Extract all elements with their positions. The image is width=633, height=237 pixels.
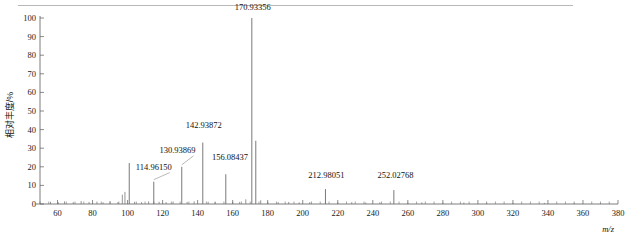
peak-label: 114.96150 [136,162,172,172]
peak-label: 212.98051 [308,170,344,180]
x-tick-label: 260 [401,208,414,218]
y-tick-label: 20 [28,162,37,172]
x-tick-label: 380 [612,208,625,218]
x-tick-label: 340 [542,208,555,218]
y-tick-label: 0 [32,199,36,209]
x-tick-label: 300 [472,208,485,218]
peak-label: 130.93869 [159,145,195,155]
x-tick-label: 320 [507,208,520,218]
x-tick-label: 240 [366,208,379,218]
y-tick-label: 90 [28,32,37,42]
y-tick-label: 60 [28,87,37,97]
axes-group: 6080100120140160180200220240260280300320… [23,13,624,218]
x-tick-label: 140 [191,208,204,218]
y-tick-label: 80 [28,50,37,60]
y-tick-label: 50 [28,106,37,116]
x-tick-label: 180 [261,208,274,218]
peak-label: 252.02768 [377,170,413,180]
x-tick-label: 100 [121,208,134,218]
peak-label: 170.93356 [235,2,271,12]
peak-label: 156.08437 [212,152,248,162]
x-tick-label: 60 [53,208,62,218]
x-tick-label: 220 [331,208,344,218]
x-tick-label: 80 [88,208,97,218]
x-tick-label: 120 [156,208,169,218]
y-tick-label: 30 [28,143,37,153]
x-tick-label: 200 [296,208,309,218]
x-tick-label: 160 [226,208,239,218]
x-tick-label: 280 [436,208,449,218]
spectrum-plot: 6080100120140160180200220240260280300320… [0,0,633,237]
y-axis-title: 相对丰度/% [4,92,15,139]
y-tick-label: 40 [28,125,37,135]
x-tick-label: 360 [577,208,590,218]
y-tick-label: 10 [28,180,37,190]
x-axis-title: m/z [602,224,615,234]
y-tick-label: 70 [28,69,37,79]
peak-annotations: 114.96150130.93869142.93872156.08437170.… [136,2,414,180]
y-tick-label: 100 [23,13,36,23]
mass-spectrum-figure: 6080100120140160180200220240260280300320… [0,0,633,237]
peak-label: 142.93872 [186,120,222,130]
